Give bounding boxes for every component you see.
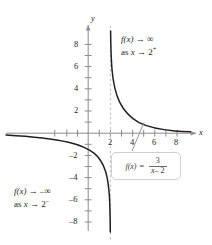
x-tick-label-8: 8 (174, 138, 178, 147)
y-tick-label-8: 8 (74, 40, 78, 49)
formula-denominator: x– 2 (149, 166, 167, 175)
formula-fraction: 3 x– 2 (149, 157, 167, 175)
annotation-left-arrow: → (29, 186, 38, 196)
annotation-left-sign: – (46, 197, 49, 204)
annotation-left-line1: f(x) → –∞ (14, 185, 51, 197)
x-axis-label: x (199, 128, 203, 137)
annotation-left-fn: f(x) (14, 186, 27, 196)
curve-left-branch (6, 135, 110, 232)
annotation-left-limit-value: –∞ (40, 186, 51, 196)
x-tick-label-4: 4 (130, 138, 134, 147)
formula-equals: = (140, 162, 145, 171)
figure-canvas: x y 8 6 4 2 –2 –4 –6 –8 2 4 6 8 f(x) → ∞… (0, 0, 212, 245)
annotation-left-line2: as x → 2– (14, 197, 51, 210)
x-axis (6, 131, 196, 136)
formula-numerator: 3 (154, 157, 162, 165)
annotation-right-arrow: → (136, 34, 145, 44)
x-tick-label-6: 6 (152, 138, 156, 147)
annotation-right-line2: as x → 2+ (121, 45, 156, 58)
y-tick-label-neg2: –2 (69, 151, 78, 160)
y-tick-label-neg8: –8 (69, 217, 78, 226)
y-tick-label-4: 4 (74, 84, 78, 93)
annotation-right-fn: f(x) (121, 34, 134, 44)
annotation-right-as: as (121, 47, 129, 57)
formula-callout-box: f(x) = 3 x– 2 (111, 152, 181, 180)
annotation-left-arrow2: → (30, 199, 39, 209)
formula-lhs: f(x) (125, 162, 136, 171)
y-tick-label-2: 2 (74, 106, 78, 115)
annotation-left-limit: f(x) → –∞ as x → 2– (14, 185, 51, 210)
x-tick-label-2: 2 (108, 138, 112, 147)
annotation-right-var: x (131, 47, 135, 57)
y-tick-label-neg6: –6 (69, 195, 78, 204)
annotation-right-limit: f(x) → ∞ as x → 2+ (121, 33, 156, 58)
annotation-left-as: as (14, 199, 22, 209)
y-axis-label: y (91, 14, 95, 23)
annotation-left-var: x (24, 199, 28, 209)
annotation-right-limit-value: ∞ (147, 34, 153, 44)
y-tick-label-neg4: –4 (69, 173, 78, 182)
y-tick-label-6: 6 (74, 62, 78, 71)
annotation-right-line1: f(x) → ∞ (121, 33, 156, 45)
annotation-right-sign: + (153, 45, 157, 52)
formula-denominator-rest: – 2 (155, 166, 165, 175)
formula-expression: f(x) = 3 x– 2 (112, 153, 180, 179)
annotation-right-arrow2: → (137, 47, 146, 57)
